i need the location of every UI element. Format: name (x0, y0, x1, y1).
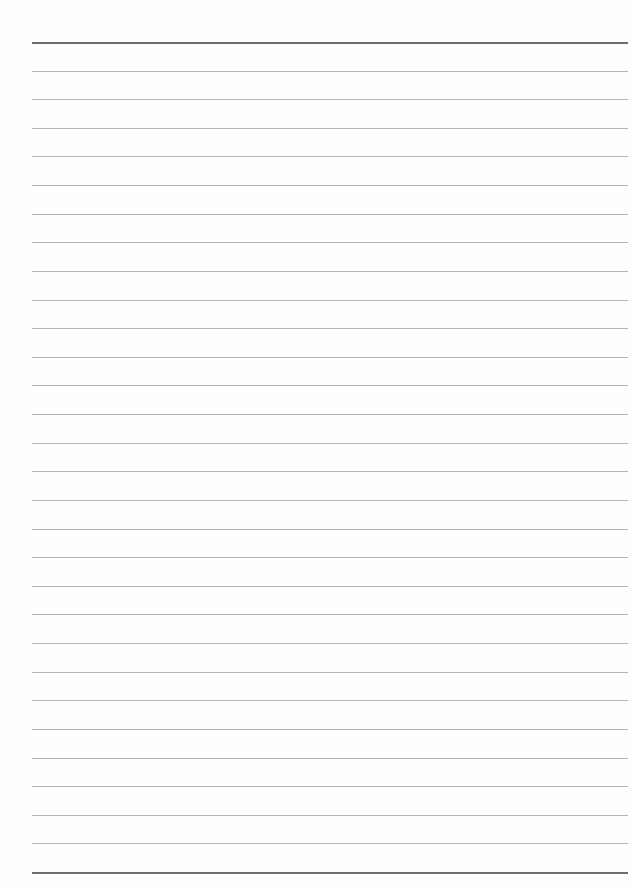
rule-line (32, 758, 628, 759)
rule-line (32, 271, 628, 272)
rule-line (32, 557, 628, 558)
heavy-rule-line (32, 872, 628, 874)
rule-line (32, 786, 628, 787)
rule-line (32, 443, 628, 444)
rule-line (32, 700, 628, 701)
lined-paper-sheet (0, 0, 630, 889)
rule-line (32, 672, 628, 673)
rule-line (32, 500, 628, 501)
rule-line (32, 357, 628, 358)
rule-line (32, 214, 628, 215)
rule-line (32, 586, 628, 587)
rule-line (32, 185, 628, 186)
rule-line (32, 128, 628, 129)
rule-line (32, 242, 628, 243)
rule-line (32, 71, 628, 72)
heavy-rule-line (32, 42, 628, 44)
rule-line (32, 300, 628, 301)
rule-line (32, 99, 628, 100)
rule-line (32, 414, 628, 415)
rule-line (32, 643, 628, 644)
rule-line (32, 471, 628, 472)
rule-line (32, 385, 628, 386)
rule-line (32, 815, 628, 816)
rule-line (32, 843, 628, 844)
rule-line (32, 156, 628, 157)
rule-line (32, 328, 628, 329)
rule-line (32, 729, 628, 730)
rule-line (32, 529, 628, 530)
rule-line (32, 614, 628, 615)
